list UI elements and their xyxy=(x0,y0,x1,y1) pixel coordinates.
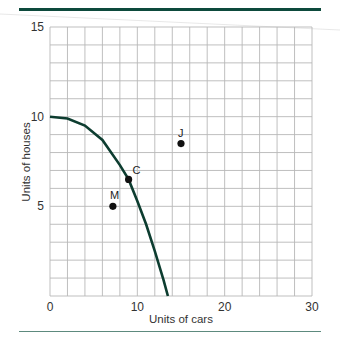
x-tick-label: 10 xyxy=(131,300,145,314)
y-tick-label: 15 xyxy=(31,20,45,34)
point-m xyxy=(109,203,116,210)
grid xyxy=(50,27,312,296)
x-axis-label: Units of cars xyxy=(149,313,213,325)
point-label: M xyxy=(110,189,119,201)
ppf-chart: 010203051015 CMJ Units of cars Units of … xyxy=(0,0,340,346)
point-j xyxy=(177,140,184,147)
y-tick-label: 5 xyxy=(37,199,44,213)
x-tick-label: 30 xyxy=(305,300,319,314)
y-axis-label: Units of houses xyxy=(20,122,32,202)
point-label: J xyxy=(178,127,184,139)
axis-ticks: 010203051015 xyxy=(31,20,319,314)
x-tick-label: 20 xyxy=(218,300,232,314)
y-tick-label: 10 xyxy=(31,110,45,124)
point-label: C xyxy=(133,164,141,176)
faint-line xyxy=(0,14,340,30)
x-tick-label: 0 xyxy=(47,300,54,314)
point-c xyxy=(125,176,132,183)
